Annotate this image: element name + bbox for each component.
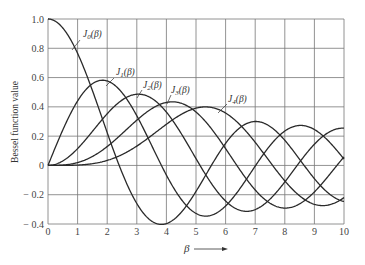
x-tick-label: 7 bbox=[253, 226, 258, 237]
curve-label-J3: J3(β) bbox=[171, 85, 190, 97]
y-tick-label: − 0.4 bbox=[23, 219, 44, 230]
y-tick-label: 0.2 bbox=[32, 131, 45, 142]
x-axis-symbol: β bbox=[183, 242, 190, 254]
x-tick-label: 0 bbox=[46, 226, 51, 237]
y-tick-label: 1.0 bbox=[32, 14, 45, 25]
curve-labels: J0(β)J1(β)J2(β)J3(β)J4(β) bbox=[72, 29, 247, 113]
grid bbox=[48, 19, 344, 224]
y-tick-label: − 0.2 bbox=[23, 189, 44, 200]
y-tick-label: 0.4 bbox=[32, 101, 45, 112]
x-tick-label: 1 bbox=[75, 226, 80, 237]
y-tick-label: 0 bbox=[39, 160, 44, 171]
curve-label-J0: J0(β) bbox=[83, 29, 102, 41]
x-tick-label: 6 bbox=[223, 226, 228, 237]
y-axis-title: Bessel function value bbox=[10, 81, 20, 163]
x-tick-label: 5 bbox=[194, 226, 199, 237]
arrowhead-icon bbox=[222, 247, 228, 251]
x-axis-title: β bbox=[183, 242, 228, 254]
y-tick-label: 0.8 bbox=[32, 43, 45, 54]
curve-label-J4: J4(β) bbox=[228, 94, 247, 106]
curve-label-J2: J2(β) bbox=[143, 80, 162, 92]
y-tick-label: 0.6 bbox=[32, 72, 45, 83]
bessel-chart: 0123456789101.00.80.60.40.20− 0.2− 0.4 J… bbox=[0, 0, 365, 265]
x-tick-label: 9 bbox=[312, 226, 317, 237]
x-tick-label: 8 bbox=[282, 226, 287, 237]
x-tick-label: 10 bbox=[339, 226, 349, 237]
x-tick-label: 2 bbox=[105, 226, 110, 237]
x-tick-label: 4 bbox=[164, 226, 169, 237]
x-tick-label: 3 bbox=[134, 226, 139, 237]
